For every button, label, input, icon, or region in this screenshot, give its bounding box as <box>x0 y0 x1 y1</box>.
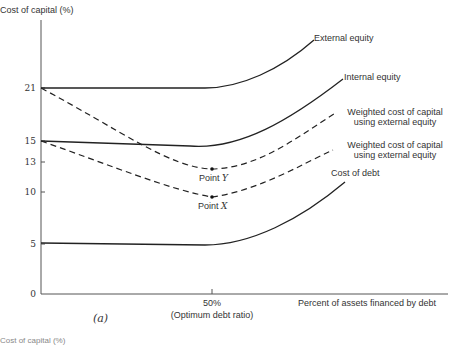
label-wacc-y: Weighted cost of capital using external … <box>335 108 455 128</box>
label-external-equity: External equity <box>314 34 374 44</box>
label-wacc-x-line2: using external equity <box>335 151 455 161</box>
label-wacc-y-line2: using external equity <box>335 118 455 128</box>
panel-label: (a) <box>93 313 108 325</box>
point-x-word: Point <box>198 201 219 211</box>
y-tick-0: 0 <box>16 289 36 299</box>
x-tick-50-label: 50% <box>192 299 232 309</box>
x-tick-50-sublabel: (Optimum debt ratio) <box>162 311 262 321</box>
label-point-x: Point X <box>198 202 227 212</box>
label-wacc-x: Weighted cost of capital using external … <box>335 141 455 161</box>
y-tick-5: 5 <box>16 239 36 249</box>
y-tick-15: 15 <box>16 136 36 146</box>
series-external-equity <box>41 40 314 88</box>
y-tick-21: 21 <box>16 83 36 93</box>
y-tick-13: 13 <box>16 157 36 167</box>
point-y-letter: Y <box>222 173 228 183</box>
y-tick-10: 10 <box>16 187 36 197</box>
series-wacc-point-y <box>41 88 334 169</box>
point-x-marker <box>210 195 214 199</box>
point-x-letter: X <box>221 201 227 211</box>
label-cost-of-debt: Cost of debt <box>331 169 380 179</box>
x-axis-label: Percent of assets financed by debt <box>298 299 436 309</box>
label-internal-equity: Internal equity <box>344 73 401 83</box>
y-axis-label: Cost of capital (%) <box>0 6 74 16</box>
series-wacc-point-x <box>41 141 333 197</box>
series-cost-of-debt <box>41 182 345 245</box>
label-point-y: Point Y <box>199 174 228 184</box>
y-ticks <box>41 88 45 244</box>
next-panel-y-label: Cost of capital (%) <box>0 337 65 346</box>
point-y-word: Point <box>199 173 220 183</box>
point-y-marker <box>210 167 214 171</box>
